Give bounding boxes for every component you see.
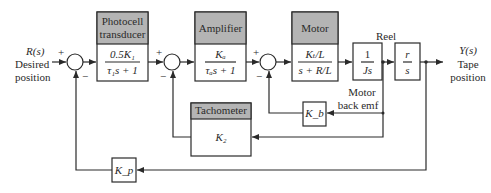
input-label-2: position (15, 71, 50, 84)
sign-minus-1: − (82, 70, 88, 83)
reel-den: s (395, 64, 420, 77)
back-emf-label-1: Motor (340, 86, 384, 99)
kb-gain: K_b (303, 107, 326, 120)
summing-junction-2 (164, 54, 180, 70)
motor-title: Motor (292, 22, 338, 35)
input-symbol: R(s) (26, 45, 44, 58)
summing-junction-1 (67, 54, 83, 70)
output-symbol: Y(s) (448, 44, 488, 57)
sign-plus-1: + (58, 46, 64, 59)
motor-den: s + R/L (292, 64, 338, 77)
kp-gain: K_p (112, 164, 136, 177)
sign-plus-3: + (253, 46, 259, 59)
motor-num: Kₜ/L (292, 48, 338, 61)
summing-junction-3 (260, 54, 276, 70)
sign-minus-3: − (256, 70, 262, 83)
tachometer-title: Tachometer (191, 104, 251, 117)
photocell-title-1: Photocell (97, 15, 148, 28)
photocell-title-2: transducer (97, 28, 148, 41)
output-label-1: Tape (448, 58, 488, 71)
reel-num: r (395, 48, 420, 61)
input-label-1: Desired (15, 58, 49, 71)
sign-plus-2: + (156, 46, 162, 59)
inertia-num: 1 (353, 48, 382, 61)
amplifier-den: τₐs + 1 (195, 64, 246, 77)
reel-title: Reel (376, 30, 396, 43)
back-emf-label-2: back emf (333, 99, 383, 112)
output-label-2: position (448, 71, 488, 84)
inertia-den: Js (353, 64, 382, 77)
photocell-num: 0.5K₁ (97, 48, 148, 61)
sign-minus-2: − (160, 70, 166, 83)
tachometer-gain: K₂ (191, 131, 251, 144)
photocell-den: τ₁s + 1 (97, 64, 148, 77)
amplifier-title: Amplifier (195, 22, 246, 35)
amplifier-num: Kₐ (195, 48, 246, 61)
